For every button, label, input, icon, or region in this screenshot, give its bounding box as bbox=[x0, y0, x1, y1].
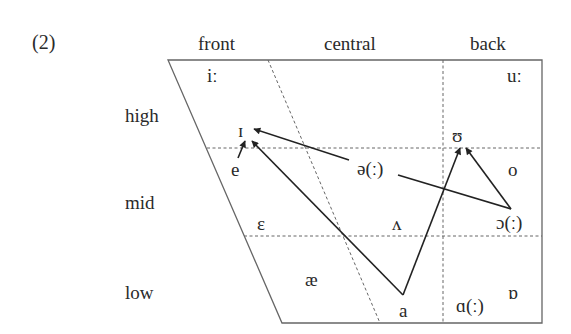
vowel-epsilon: ɛ bbox=[257, 214, 265, 233]
quadrilateral-outline bbox=[168, 60, 542, 323]
vowel-upsilon: ʊ bbox=[452, 126, 462, 145]
vowel-open-o: ɔ(ː) bbox=[496, 213, 522, 232]
row-label-low: low bbox=[125, 283, 154, 302]
column-header-central: central bbox=[324, 34, 376, 53]
vowel-a: a bbox=[399, 301, 407, 320]
vowel-wedge: ʌ bbox=[392, 214, 402, 233]
arrow-schwa-to-small-cap-i bbox=[254, 129, 349, 160]
vowel-o: o bbox=[508, 160, 518, 179]
front-central-divider bbox=[268, 60, 380, 323]
arrow-e-to-small-cap-i bbox=[238, 141, 245, 158]
vowel-chart-figure: (2) front central back high mid low iː u… bbox=[0, 0, 571, 334]
arrow-open-o-to-upsilon bbox=[466, 148, 511, 209]
vowel-schwa: ə(ː) bbox=[357, 159, 383, 178]
example-number: (2) bbox=[32, 32, 55, 52]
vowel-turned-script-a: ɒ bbox=[508, 283, 518, 302]
line-schwa-to-open-o bbox=[398, 175, 511, 209]
vowel-e: e bbox=[231, 160, 239, 179]
column-header-front: front bbox=[198, 34, 235, 53]
row-label-high: high bbox=[125, 106, 159, 125]
column-header-back: back bbox=[470, 34, 506, 53]
vowel-i-long: iː bbox=[207, 66, 218, 85]
row-label-mid: mid bbox=[125, 193, 155, 212]
vowel-u-long: uː bbox=[507, 66, 522, 85]
vowel-small-cap-i: ɪ bbox=[238, 121, 243, 140]
vowel-ae: æ bbox=[305, 270, 318, 289]
arrow-a-to-upsilon bbox=[403, 148, 460, 295]
vowel-script-a: ɑ(ː) bbox=[456, 296, 484, 315]
